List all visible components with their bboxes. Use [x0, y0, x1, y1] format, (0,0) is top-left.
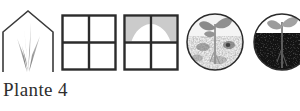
figure-caption: Plante 4	[3, 78, 68, 102]
window-four-pane-shaded-icon	[122, 0, 180, 80]
seedling-light-soil-icon	[185, 0, 245, 80]
seedling-dark-soil-icon	[252, 0, 300, 80]
window-four-pane-clear-icon	[60, 0, 118, 80]
icon-row	[0, 0, 300, 80]
greenhouse-with-grass-icon	[0, 0, 56, 80]
figure-sheet: Plante 4	[0, 0, 300, 111]
